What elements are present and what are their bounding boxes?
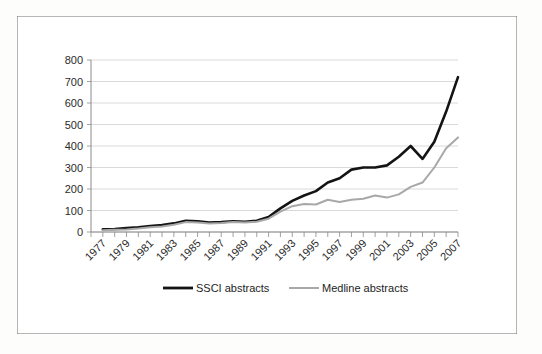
ytick-label-600: 600	[65, 97, 83, 109]
ytick-label-400: 400	[65, 140, 83, 152]
xtick-label-1993: 1993	[272, 237, 298, 263]
xtick-label-1977: 1977	[82, 237, 108, 263]
line-chart: 0100200300400500600700800 19771979198119…	[17, 16, 517, 334]
xtick-label-2007: 2007	[438, 237, 464, 263]
ytick-label-200: 200	[65, 183, 83, 195]
xtick-label-1995: 1995	[296, 237, 322, 263]
legend-label-medline: Medline abstracts	[322, 282, 409, 294]
ytick-label-100: 100	[65, 205, 83, 217]
xtick-label-1989: 1989	[225, 237, 251, 263]
xtick-label-1979: 1979	[106, 237, 132, 263]
xtick-label-2001: 2001	[367, 237, 393, 263]
xtick-label-1997: 1997	[319, 237, 345, 263]
figure-frame: 0100200300400500600700800 19771979198119…	[17, 16, 517, 334]
series-line-ssci	[103, 77, 458, 229]
gridlines-group	[91, 60, 458, 232]
y-axis-group: 0100200300400500600700800	[65, 54, 91, 238]
chart-canvas: 0100200300400500600700800 19771979198119…	[17, 16, 517, 334]
xtick-label-1985: 1985	[177, 237, 203, 263]
x-axis-group: 1977197919811983198519871989199119931995…	[82, 232, 463, 263]
ytick-label-700: 700	[65, 76, 83, 88]
page-background: 0100200300400500600700800 19771979198119…	[0, 0, 542, 354]
ytick-label-800: 800	[65, 54, 83, 66]
ytick-label-500: 500	[65, 119, 83, 131]
legend-label-ssci: SSCI abstracts	[196, 282, 270, 294]
xtick-label-2003: 2003	[390, 237, 416, 263]
xtick-label-1991: 1991	[248, 237, 274, 263]
series-group	[103, 77, 458, 230]
ytick-label-300: 300	[65, 162, 83, 174]
xtick-label-1999: 1999	[343, 237, 369, 263]
xtick-label-1983: 1983	[153, 237, 179, 263]
ytick-label-0: 0	[77, 226, 83, 238]
xtick-label-1987: 1987	[201, 237, 227, 263]
chart-legend: SSCI abstractsMedline abstracts	[163, 282, 409, 294]
xtick-label-1981: 1981	[130, 237, 156, 263]
xtick-label-2005: 2005	[414, 237, 440, 263]
